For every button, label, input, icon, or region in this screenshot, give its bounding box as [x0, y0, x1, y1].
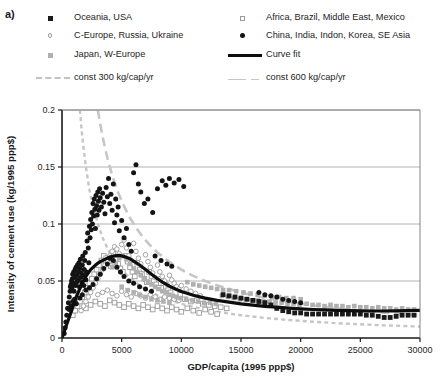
- data-point: [394, 314, 399, 319]
- data-point: [99, 204, 104, 209]
- data-point: [322, 304, 327, 309]
- data-point: [221, 292, 226, 297]
- data-point: [184, 287, 189, 292]
- data-point: [286, 298, 291, 303]
- data-point: [92, 272, 97, 277]
- data-point: [160, 306, 165, 311]
- data-point: [227, 293, 232, 298]
- data-point: [148, 265, 153, 270]
- data-point: [117, 303, 122, 308]
- data-point: [268, 293, 273, 298]
- x-axis-title: GDP/capita (1995 ppp$): [187, 361, 294, 372]
- data-point: [143, 252, 148, 257]
- data-point: [98, 195, 103, 200]
- data-point: [83, 250, 88, 255]
- data-point: [122, 235, 127, 240]
- data-point: [102, 211, 107, 216]
- data-point: [93, 299, 98, 304]
- y-axis-title: Intensity of cement use (kg/1995 ppp$): [5, 136, 16, 312]
- data-point: [126, 279, 131, 284]
- data-point: [67, 294, 72, 299]
- data-point: [167, 176, 172, 181]
- data-point: [218, 305, 223, 310]
- data-point: [316, 312, 321, 317]
- data-point: [113, 196, 118, 201]
- data-point: [158, 270, 163, 275]
- data-point: [90, 222, 95, 227]
- data-point: [251, 298, 256, 303]
- data-point: [100, 290, 105, 295]
- data-point: [153, 253, 158, 258]
- data-point: [304, 302, 309, 307]
- data-point: [104, 185, 109, 190]
- y-tick-label: 0.2: [42, 105, 55, 115]
- data-point: [111, 258, 116, 263]
- data-point: [178, 296, 183, 301]
- data-point: [298, 311, 303, 316]
- data-point: [273, 300, 278, 305]
- data-point: [165, 261, 170, 266]
- data-point: [292, 311, 297, 316]
- data-point: [108, 192, 113, 197]
- data-point: [262, 300, 267, 305]
- data-point: [115, 294, 120, 299]
- data-point: [114, 265, 119, 270]
- data-point: [160, 178, 165, 183]
- data-point: [364, 313, 369, 318]
- data-point: [94, 276, 99, 281]
- x-tick-label: 25000: [348, 345, 373, 355]
- data-point: [149, 289, 154, 294]
- data-point: [172, 180, 177, 185]
- data-point: [248, 291, 253, 296]
- data-point: [190, 298, 195, 303]
- data-point: [167, 300, 172, 305]
- data-point: [146, 305, 151, 310]
- data-point: [90, 276, 95, 281]
- data-point: [179, 309, 184, 314]
- data-point: [133, 162, 138, 167]
- data-point: [185, 280, 190, 285]
- data-point: [310, 312, 315, 317]
- data-point: [145, 196, 150, 201]
- data-point: [80, 292, 85, 297]
- data-point: [328, 312, 333, 317]
- data-point: [80, 263, 85, 268]
- data-point: [196, 299, 201, 304]
- data-point: [131, 281, 136, 286]
- data-point: [334, 312, 339, 317]
- data-point: [155, 263, 160, 268]
- data-point: [316, 303, 321, 308]
- data-point: [124, 292, 129, 297]
- data-point: [119, 218, 124, 223]
- data-point: [91, 282, 96, 287]
- data-point: [155, 298, 160, 303]
- data-point: [376, 305, 381, 310]
- data-point: [224, 306, 229, 311]
- data-point: [105, 261, 110, 266]
- data-point: [340, 312, 345, 317]
- data-point: [364, 305, 369, 310]
- x-tick-label: 5000: [112, 345, 132, 355]
- data-point: [163, 183, 168, 188]
- data-point: [98, 302, 103, 307]
- data-point: [105, 288, 110, 293]
- data-point: [114, 212, 119, 217]
- data-point: [138, 190, 143, 195]
- data-point: [274, 294, 279, 299]
- data-point: [100, 191, 105, 196]
- data-point: [110, 249, 115, 254]
- data-point: [128, 262, 133, 267]
- data-point: [143, 295, 148, 300]
- data-point: [88, 290, 93, 295]
- x-tick-label: 20000: [288, 345, 313, 355]
- data-point: [96, 292, 101, 297]
- data-point: [322, 312, 327, 317]
- data-point: [93, 226, 98, 231]
- data-point: [181, 184, 186, 189]
- data-point: [137, 284, 142, 289]
- data-point: [131, 304, 136, 309]
- data-point: [131, 290, 136, 295]
- data-point: [149, 297, 154, 302]
- data-point: [101, 200, 106, 205]
- data-point: [131, 170, 136, 175]
